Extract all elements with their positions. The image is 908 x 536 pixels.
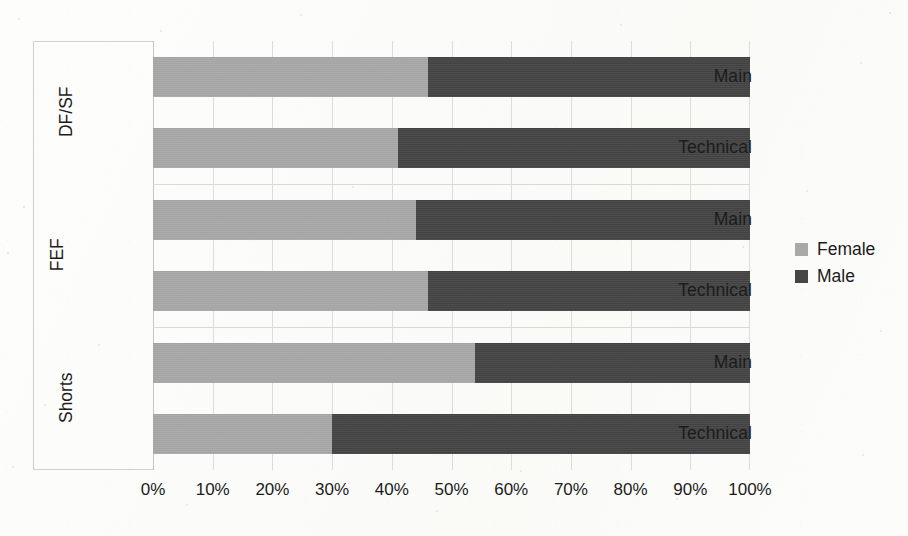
x-tick-label: 70% (554, 481, 588, 498)
group-label-fef: FEF (41, 246, 59, 264)
x-tick-label: 0% (141, 481, 166, 498)
x-tick-label: 10% (196, 481, 230, 498)
gridline-50 (452, 41, 453, 470)
x-tick-label: 50% (434, 481, 468, 498)
bar-category-label: Technical (678, 425, 752, 443)
x-tick-label: 100% (728, 481, 771, 498)
group-separator (153, 184, 750, 185)
gridline-60 (511, 41, 512, 470)
bar-segment-female[interactable] (153, 343, 475, 383)
group-label-shorts: Shorts (41, 389, 59, 407)
x-tick-label: 60% (494, 481, 528, 498)
gridline-20 (272, 41, 273, 470)
bar-segment-female[interactable] (153, 414, 332, 454)
group-label-df-sf: DF/SF (41, 103, 59, 121)
chart-container: MainTechnicalMainTechnicalMainTechnical … (0, 0, 908, 536)
group-label-text: Shorts (58, 372, 76, 423)
bar-category-label: Main (714, 211, 752, 229)
bar-segment-female[interactable] (153, 200, 416, 240)
bar-segment-male[interactable] (428, 57, 750, 97)
bar-row[interactable] (153, 200, 750, 240)
bar-row[interactable] (153, 271, 750, 311)
legend-label: Male (817, 268, 855, 286)
bar-category-label: Main (714, 354, 752, 372)
legend-item[interactable]: Female (795, 236, 900, 263)
bar-segment-female[interactable] (153, 128, 398, 168)
plot-area (153, 41, 750, 470)
gridline-30 (332, 41, 333, 470)
bar-category-label: Technical (678, 282, 752, 300)
gridline-40 (392, 41, 393, 470)
legend-swatch-male (795, 270, 808, 283)
gridline-10 (213, 41, 214, 470)
bar-row[interactable] (153, 414, 750, 454)
group-label-text: DF/SF (58, 86, 76, 137)
gridline-90 (690, 41, 691, 470)
x-tick-label: 30% (315, 481, 349, 498)
gridline-100 (749, 41, 750, 470)
gridline-80 (631, 41, 632, 470)
bar-row[interactable] (153, 128, 750, 168)
bar-segment-female[interactable] (153, 271, 428, 311)
legend-item[interactable]: Male (795, 263, 900, 290)
group-separator (153, 327, 750, 328)
group-label-text: FEF (49, 238, 67, 271)
bar-row[interactable] (153, 57, 750, 97)
x-tick-label: 80% (614, 481, 648, 498)
bar-segment-female[interactable] (153, 57, 428, 97)
bar-category-label: Technical (678, 139, 752, 157)
bar-segment-male[interactable] (475, 343, 750, 383)
legend-swatch-female (795, 243, 808, 256)
gridline-70 (571, 41, 572, 470)
chart-legend: FemaleMale (795, 236, 900, 290)
legend-label: Female (817, 241, 875, 259)
x-tick-label: 90% (673, 481, 707, 498)
gridline-0 (153, 41, 154, 470)
bar-segment-male[interactable] (416, 200, 750, 240)
bar-row[interactable] (153, 343, 750, 383)
x-tick-label: 40% (375, 481, 409, 498)
x-tick-label: 20% (255, 481, 289, 498)
bar-category-label: Main (714, 68, 752, 86)
